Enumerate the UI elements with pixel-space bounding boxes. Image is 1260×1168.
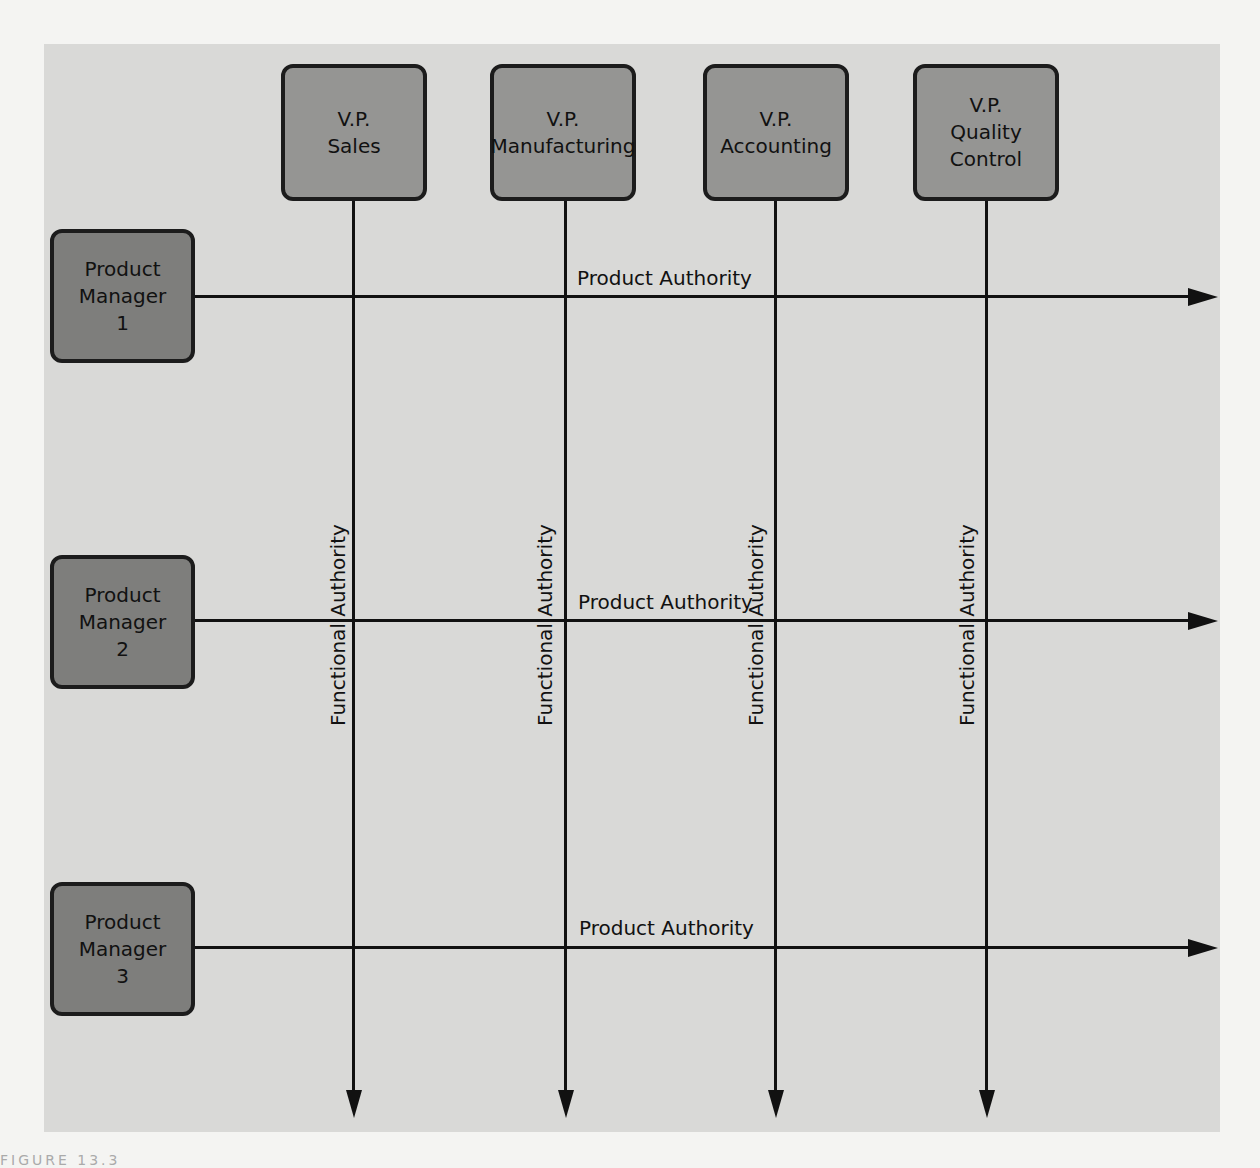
pm-line3: 1	[116, 310, 129, 337]
functional-line-accounting	[774, 200, 777, 1090]
pm-line3: 2	[116, 636, 129, 663]
arrow-right-icon	[1188, 288, 1218, 306]
functional-line-quality	[985, 200, 988, 1090]
vp-title: V.P.	[547, 106, 580, 133]
pm-line2: Manager	[79, 609, 167, 636]
pm-line1: Product	[85, 909, 161, 936]
vp-dept-2: Control	[950, 146, 1022, 173]
vp-dept: Sales	[327, 133, 380, 160]
figure-caption: FIGURE 13.3	[0, 1152, 120, 1168]
diagram-background	[44, 44, 1220, 1132]
product-line-3	[195, 946, 1190, 949]
vp-title: V.P.	[760, 106, 793, 133]
functional-authority-label-accounting: Functional Authority	[744, 526, 768, 726]
pm-line2: Manager	[79, 936, 167, 963]
product-authority-label-3: Product Authority	[579, 916, 754, 940]
arrow-down-icon	[346, 1090, 362, 1118]
product-manager-2-box: Product Manager 2	[50, 555, 195, 689]
pm-line2: Manager	[79, 283, 167, 310]
arrow-right-icon	[1188, 612, 1218, 630]
vp-title: V.P.	[970, 92, 1003, 119]
product-authority-label-1: Product Authority	[577, 266, 752, 290]
vp-quality-control-box: V.P. Quality Control	[913, 64, 1059, 201]
functional-authority-label-sales: Functional Authority	[326, 526, 350, 726]
pm-line1: Product	[85, 256, 161, 283]
pm-line1: Product	[85, 582, 161, 609]
arrow-down-icon	[979, 1090, 995, 1118]
product-authority-label-2: Product Authority	[578, 590, 753, 614]
functional-authority-label-quality: Functional Authority	[955, 526, 979, 726]
vp-title: V.P.	[338, 106, 371, 133]
product-line-1	[195, 295, 1190, 298]
vp-dept: Accounting	[720, 133, 832, 160]
product-manager-3-box: Product Manager 3	[50, 882, 195, 1016]
vp-manufacturing-box: V.P. Manufacturing	[490, 64, 636, 201]
arrow-right-icon	[1188, 939, 1218, 957]
product-manager-1-box: Product Manager 1	[50, 229, 195, 363]
functional-line-manufacturing	[564, 200, 567, 1090]
pm-line3: 3	[116, 963, 129, 990]
arrow-down-icon	[558, 1090, 574, 1118]
vp-dept: Quality	[950, 119, 1021, 146]
vp-sales-box: V.P. Sales	[281, 64, 427, 201]
functional-authority-label-manufacturing: Functional Authority	[533, 526, 557, 726]
arrow-down-icon	[768, 1090, 784, 1118]
vp-accounting-box: V.P. Accounting	[703, 64, 849, 201]
functional-line-sales	[352, 200, 355, 1090]
vp-dept: Manufacturing	[491, 133, 636, 160]
